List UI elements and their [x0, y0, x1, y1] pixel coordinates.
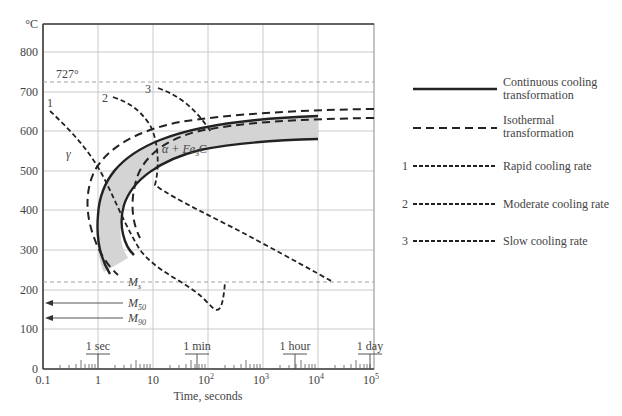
svg-text:800: 800 — [20, 45, 38, 59]
cct-diagram: 0 100 200 300 400 500 600 700 800 °C 1 s… — [0, 0, 622, 416]
legend: Continuous cooling transformation Isothe… — [402, 75, 609, 248]
svg-text:2: 2 — [402, 197, 408, 211]
plot-frame — [43, 24, 374, 369]
gamma-label: γ — [66, 147, 71, 161]
svg-text:transformation: transformation — [503, 126, 574, 140]
svg-text:100: 100 — [20, 322, 38, 336]
curve-1-label: 1 — [47, 96, 53, 110]
time-marker-1min: 1 min — [183, 339, 211, 369]
svg-text:Slow cooling rate: Slow cooling rate — [503, 234, 588, 248]
svg-text:1: 1 — [95, 373, 101, 387]
svg-text:1 hour: 1 hour — [280, 339, 311, 353]
m90-arrow — [45, 315, 123, 321]
svg-text:103: 103 — [253, 372, 269, 387]
svg-text:Continuous cooling: Continuous cooling — [503, 75, 597, 89]
svg-text:transformation: transformation — [503, 88, 574, 102]
svg-text:0.1: 0.1 — [36, 373, 51, 387]
gridlines — [43, 24, 374, 369]
svg-text:Rapid cooling rate: Rapid cooling rate — [503, 159, 592, 173]
svg-text:200: 200 — [20, 283, 38, 297]
svg-text:600: 600 — [20, 124, 38, 138]
svg-text:3: 3 — [402, 234, 408, 248]
x-axis-title: Time, seconds — [174, 389, 243, 403]
svg-text:105: 105 — [363, 372, 379, 387]
svg-text:1 sec: 1 sec — [86, 339, 110, 353]
legend-item-isothermal: Isothermal transformation — [413, 113, 574, 140]
svg-text:Isothermal: Isothermal — [503, 113, 555, 127]
m50-arrow — [45, 300, 123, 306]
legend-item-rapid: 1 Rapid cooling rate — [402, 159, 592, 173]
ms-label: Ms — [127, 275, 141, 291]
m90-label: M90 — [127, 311, 146, 327]
time-marker-1hour: 1 hour — [280, 339, 311, 369]
legend-item-slow: 3 Slow cooling rate — [402, 234, 588, 248]
x-tick-labels: 0.1 1 10 102 103 104 105 — [36, 372, 380, 387]
svg-text:500: 500 — [20, 164, 38, 178]
svg-text:102: 102 — [198, 372, 214, 387]
m50-label: M50 — [127, 296, 146, 312]
svg-text:1 min: 1 min — [183, 339, 211, 353]
svg-text:Moderate cooling rate: Moderate cooling rate — [503, 197, 609, 211]
eutectoid-label: 727° — [56, 67, 79, 81]
x-minor-ticks — [60, 360, 370, 369]
curve-2-label: 2 — [102, 91, 108, 105]
svg-text:1: 1 — [402, 159, 408, 173]
svg-text:700: 700 — [20, 85, 38, 99]
curve-3-label: 3 — [145, 82, 151, 96]
svg-text:10: 10 — [147, 373, 159, 387]
y-tick-labels: 0 100 200 300 400 500 600 700 800 °C — [20, 17, 38, 376]
svg-text:°C: °C — [25, 17, 38, 31]
svg-text:300: 300 — [20, 243, 38, 257]
time-marker-1sec: 1 sec — [86, 339, 110, 369]
time-marker-1day: 1 day — [357, 339, 383, 369]
legend-item-cct: Continuous cooling transformation — [413, 75, 597, 102]
svg-text:400: 400 — [20, 203, 38, 217]
svg-text:1 day: 1 day — [357, 339, 383, 353]
legend-item-moderate: 2 Moderate cooling rate — [402, 197, 609, 211]
svg-text:104: 104 — [308, 372, 324, 387]
alpha-fe3c-label: α + Fe3C — [162, 142, 207, 158]
